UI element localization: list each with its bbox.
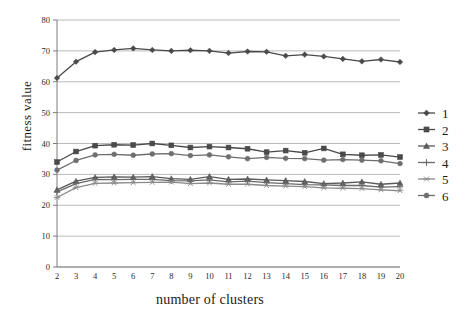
y-tick-label: 40 — [42, 139, 51, 149]
x-tick-label: 9 — [188, 271, 192, 281]
x-tick-label: 12 — [243, 271, 252, 281]
chart-figure: fitness value number of clusters 0102030… — [0, 0, 471, 316]
circle-marker — [207, 153, 212, 158]
legend-item-3[interactable]: 3 — [418, 139, 449, 154]
square-marker — [424, 127, 429, 132]
diamond-marker — [111, 47, 117, 53]
x-tick-label: 6 — [131, 271, 135, 281]
diamond-marker — [207, 48, 213, 54]
y-tick-label: 10 — [42, 231, 51, 241]
circle-marker — [359, 158, 364, 163]
circle-marker — [169, 151, 174, 156]
x-tick-label: 14 — [281, 271, 290, 281]
square-marker — [359, 153, 364, 158]
diamond-marker — [321, 54, 327, 60]
legend-group: 123456 — [418, 106, 449, 204]
gridlines-group — [57, 20, 400, 267]
diamond-marker — [424, 110, 430, 116]
y-tick-label: 80 — [42, 15, 51, 25]
circle-marker — [340, 157, 345, 162]
chart-plot-area: 01020304050607080 2345678910111213141516… — [0, 0, 471, 316]
x-tick-label: 15 — [300, 271, 309, 281]
diamond-marker — [92, 49, 98, 55]
x-tick-label: 4 — [93, 271, 98, 281]
square-marker — [131, 143, 136, 148]
square-marker — [283, 148, 288, 153]
y-tick-label: 20 — [42, 200, 51, 210]
circle-marker — [302, 156, 307, 161]
legend-item-2[interactable]: 2 — [418, 123, 449, 138]
diamond-marker — [188, 47, 194, 53]
series-4 — [54, 176, 403, 195]
circle-marker — [226, 154, 231, 159]
x-tick-label: 13 — [262, 271, 271, 281]
x-tick-label: 16 — [320, 271, 329, 281]
x-tick-label: 10 — [205, 271, 214, 281]
y-tick-label: 50 — [42, 108, 51, 118]
diamond-marker — [169, 48, 175, 54]
legend-item-6[interactable]: 6 — [418, 189, 449, 204]
square-marker — [112, 142, 117, 147]
y-tick-label: 0 — [46, 262, 50, 272]
cross-marker — [423, 159, 430, 166]
circle-marker — [398, 161, 403, 166]
diamond-marker — [302, 52, 308, 58]
circle-marker — [150, 152, 155, 157]
diamond-marker — [397, 59, 403, 65]
square-marker — [188, 145, 193, 150]
diamond-marker — [359, 59, 365, 65]
circle-marker — [321, 158, 326, 163]
square-marker — [93, 143, 98, 148]
x-tick-label: 8 — [169, 271, 173, 281]
x-tick-label: 7 — [150, 271, 154, 281]
circle-marker — [424, 193, 429, 198]
square-marker — [321, 146, 326, 151]
circle-marker — [112, 152, 117, 157]
square-marker — [150, 141, 155, 146]
asterisk-marker — [423, 177, 430, 182]
square-marker — [207, 144, 212, 149]
square-marker — [302, 150, 307, 155]
legend-label: 2 — [442, 123, 449, 138]
square-marker — [264, 150, 269, 155]
x-tick-label: 5 — [112, 271, 116, 281]
square-marker — [55, 160, 60, 165]
square-marker — [379, 153, 384, 158]
legend-label: 6 — [442, 189, 449, 204]
square-marker — [169, 143, 174, 148]
cross-marker — [54, 189, 60, 195]
circle-marker — [283, 156, 288, 161]
x-tick-label: 11 — [224, 271, 232, 281]
legend-item-5[interactable]: 5 — [418, 172, 449, 187]
legend-item-1[interactable]: 1 — [418, 106, 449, 121]
x-tick-label: 3 — [74, 271, 78, 281]
cross-marker — [321, 182, 327, 188]
square-marker — [74, 149, 79, 154]
diamond-marker — [378, 57, 384, 63]
circle-marker — [93, 153, 98, 158]
circle-marker — [74, 158, 79, 163]
legend-item-4[interactable]: 4 — [418, 156, 449, 171]
square-marker — [398, 155, 403, 160]
circle-marker — [379, 158, 384, 163]
circle-marker — [55, 168, 60, 173]
circle-marker — [188, 153, 193, 158]
x-tick-label: 19 — [377, 271, 386, 281]
circle-marker — [264, 155, 269, 160]
diamond-marker — [264, 49, 270, 55]
series-2 — [55, 141, 403, 164]
data-series-group — [54, 46, 404, 200]
x-tick-labels-group: 234567891011121314151617181920 — [55, 271, 404, 281]
legend-label: 4 — [442, 156, 449, 171]
circle-marker — [245, 156, 250, 161]
x-tick-label: 2 — [55, 271, 59, 281]
y-tick-label: 60 — [42, 77, 51, 87]
circle-marker — [131, 153, 136, 158]
x-tick-label: 20 — [396, 271, 405, 281]
x-tick-label: 18 — [358, 271, 367, 281]
y-tick-labels-group: 01020304050607080 — [42, 15, 58, 272]
legend-label: 3 — [442, 139, 449, 154]
legend-label: 5 — [442, 172, 449, 187]
diamond-marker — [283, 53, 289, 59]
square-marker — [245, 146, 250, 151]
